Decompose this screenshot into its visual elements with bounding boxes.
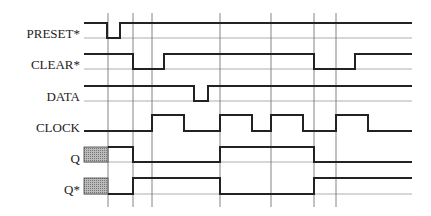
waveform-clear [84,54,412,69]
waveform-q [108,147,412,162]
q-bar-unknown-region [84,178,108,194]
q-unknown-region [84,147,108,162]
timing-diagram: PRESET* CLEAR* DATA CLOCK Q Q* [0,0,431,216]
waveforms [0,0,431,216]
waveform-q-bar [108,178,412,194]
